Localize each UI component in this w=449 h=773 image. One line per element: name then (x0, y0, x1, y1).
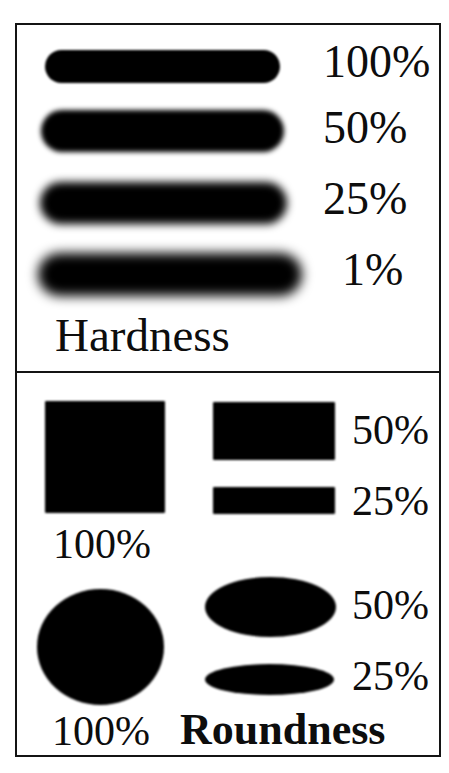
hardness-panel: 100% 50% 25% 1% Hardness (17, 25, 439, 371)
roundness-circle-label-100: 100% (52, 710, 150, 752)
hardness-label-50: 50% (323, 105, 407, 151)
roundness-rect-50 (213, 402, 335, 460)
hardness-bar-25 (40, 182, 287, 224)
hardness-bar-100 (45, 50, 280, 83)
roundness-ellipse-label-25: 25% (352, 655, 429, 697)
roundness-circle-100 (37, 589, 164, 705)
roundness-panel: 100% 50% 25% 50% 25% 100% Roundness (17, 373, 439, 755)
roundness-square-label-100: 100% (53, 523, 151, 565)
roundness-ellipse-label-50: 50% (352, 584, 429, 626)
hardness-label-1: 1% (342, 247, 403, 293)
hardness-label-100: 100% (323, 39, 430, 85)
roundness-ellipse-50 (205, 577, 336, 637)
roundness-ellipse-25 (205, 664, 334, 695)
roundness-rect-25 (213, 487, 335, 514)
hardness-bar-50 (41, 110, 284, 152)
roundness-rect-label-50: 50% (352, 409, 429, 451)
hardness-caption: Hardness (55, 312, 230, 359)
hardness-roundness-figure: 100% 50% 25% 1% Hardness 100% 50% 25% 50… (0, 0, 449, 773)
roundness-rect-label-25: 25% (352, 480, 429, 522)
roundness-square-100 (45, 401, 165, 513)
hardness-bar-1 (38, 253, 302, 296)
hardness-label-25: 25% (323, 176, 407, 222)
roundness-caption: Roundness (180, 708, 385, 752)
